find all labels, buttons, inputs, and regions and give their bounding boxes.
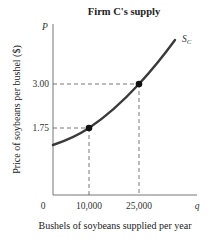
- supply-chart: 3.00 1.75 0 10,000 25,000 P q SC: [0, 0, 208, 241]
- y-tick-3-00: 3.00: [32, 79, 49, 89]
- y-axis-symbol: P: [41, 22, 48, 32]
- x-tick-25000: 25,000: [126, 201, 152, 211]
- supply-curve: [53, 40, 175, 145]
- curve-label: SC: [182, 34, 192, 46]
- point-25000-3-00: [136, 81, 143, 88]
- y-tick-1-75: 1.75: [32, 123, 49, 133]
- x-tick-10000: 10,000: [76, 201, 102, 211]
- point-10000-1-75: [86, 125, 93, 132]
- origin-label: 0: [41, 201, 46, 211]
- x-axis-symbol: q: [195, 201, 200, 211]
